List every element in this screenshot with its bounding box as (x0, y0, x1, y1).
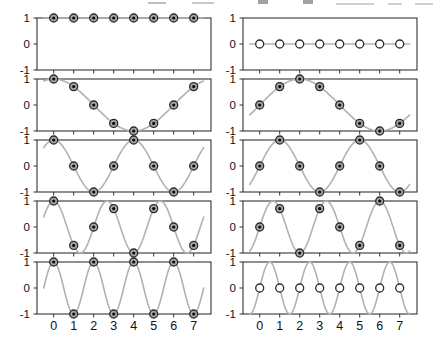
y-tick-label: 1 (230, 12, 236, 24)
waveform-curve (250, 140, 410, 192)
open-sample-marker (356, 40, 364, 48)
x-tick-label: 3 (316, 319, 323, 333)
panel-sin-k4: 10-101234567 (226, 256, 417, 333)
sample-marker-dot (298, 77, 301, 80)
sample-marker-dot (152, 312, 155, 315)
y-tick-label: 0 (24, 99, 30, 111)
y-tick-label: 0 (24, 38, 30, 50)
y-tick-label: 0 (24, 282, 30, 294)
x-tick-label: 7 (190, 319, 197, 333)
panel-cos-k4: 10-101234567 (20, 256, 211, 333)
sample-marker-dot (192, 312, 195, 315)
y-tick-label: 1 (230, 73, 236, 85)
sample-marker-dot (172, 260, 175, 263)
sample-marker-dot (258, 225, 261, 228)
sample-marker-dot (172, 16, 175, 19)
waveform-curve (250, 262, 410, 314)
sample-marker-dot (172, 190, 175, 193)
open-sample-marker (396, 284, 404, 292)
axis-box (243, 201, 417, 253)
sample-marker-dot (298, 251, 301, 254)
x-tick-label: 5 (356, 319, 363, 333)
open-sample-marker (296, 284, 304, 292)
sample-marker-dot (72, 164, 75, 167)
panel-cos-k2: 10-1 (20, 134, 211, 198)
y-tick-label: 0 (24, 160, 30, 172)
sample-marker-dot (92, 190, 95, 193)
x-tick-label: 6 (170, 319, 177, 333)
open-sample-marker (376, 40, 384, 48)
sample-marker-dot (258, 103, 261, 106)
sample-marker-dot (192, 16, 195, 19)
panel-cos-k0: 10-1 (20, 12, 211, 76)
y-tick-label: 1 (24, 195, 30, 207)
y-tick-label: 0 (230, 282, 236, 294)
sample-marker-dot (52, 260, 55, 263)
waveform-curve (44, 201, 204, 253)
open-sample-marker (336, 40, 344, 48)
y-tick-label: 1 (230, 195, 236, 207)
open-sample-marker (356, 284, 364, 292)
y-tick-label: 0 (24, 221, 30, 233)
sample-marker-dot (72, 16, 75, 19)
y-tick-label: 0 (230, 160, 236, 172)
y-tick-label: 1 (24, 256, 30, 268)
waveform-curve (44, 140, 204, 192)
sample-marker-dot (112, 164, 115, 167)
sample-marker-dot (398, 122, 401, 125)
y-tick-label: 0 (230, 221, 236, 233)
panel-cos-k1: 10-1 (20, 73, 211, 137)
y-tick-label: 1 (230, 134, 236, 146)
sample-marker-dot (132, 251, 135, 254)
open-sample-marker (276, 40, 284, 48)
sample-marker-dot (92, 16, 95, 19)
sample-marker-dot (52, 138, 55, 141)
x-tick-label: 4 (130, 319, 137, 333)
open-sample-marker (316, 284, 324, 292)
sample-marker-dot (52, 16, 55, 19)
sample-marker-dot (278, 85, 281, 88)
sample-marker-dot (152, 122, 155, 125)
sample-marker-dot (338, 103, 341, 106)
open-sample-marker (396, 40, 404, 48)
sample-marker-dot (92, 225, 95, 228)
panel-sin-k2: 10-1 (226, 134, 417, 198)
y-tick-label: 1 (24, 73, 30, 85)
panel-sin-k0: 10-1 (226, 12, 417, 76)
panel-cos-k3: 10-1 (20, 195, 211, 259)
x-tick-label: 1 (276, 319, 283, 333)
sample-marker-dot (132, 16, 135, 19)
sample-marker-dot (72, 312, 75, 315)
sample-marker-dot (132, 260, 135, 263)
sample-marker-dot (258, 164, 261, 167)
axis-box (243, 79, 417, 131)
sample-marker-dot (92, 103, 95, 106)
y-tick-label: -1 (20, 308, 30, 320)
open-sample-marker (256, 40, 264, 48)
x-tick-label: 6 (376, 319, 383, 333)
y-tick-label: 1 (24, 12, 30, 24)
sample-marker-dot (192, 85, 195, 88)
x-tick-label: 3 (110, 319, 117, 333)
figure-canvas: 10-110-110-110-110-110-110-110-110-10123… (0, 0, 435, 344)
x-tick-label: 2 (90, 319, 97, 333)
open-sample-marker (296, 40, 304, 48)
sample-marker-dot (358, 138, 361, 141)
sample-marker-dot (152, 207, 155, 210)
sample-marker-dot (112, 207, 115, 210)
sample-marker-dot (278, 138, 281, 141)
open-sample-marker (336, 284, 344, 292)
x-tick-label: 1 (70, 319, 77, 333)
sample-marker-dot (318, 190, 321, 193)
sample-marker-dot (132, 138, 135, 141)
axis-box (243, 262, 417, 314)
x-tick-label: 0 (50, 319, 57, 333)
sample-marker-dot (358, 122, 361, 125)
panel-sin-k3: 10-1 (226, 195, 417, 259)
sample-marker-dot (358, 244, 361, 247)
sample-marker-dot (172, 103, 175, 106)
sample-marker-dot (152, 164, 155, 167)
waveform-curve (44, 79, 204, 131)
sample-marker-dot (318, 85, 321, 88)
axis-box (37, 79, 211, 131)
